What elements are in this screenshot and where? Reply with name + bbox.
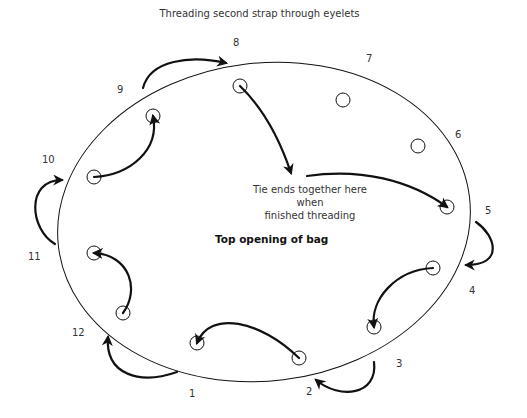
strap-path-arrows [35,60,493,392]
eyelet-number-4: 4 [469,286,475,296]
eyelets [87,79,454,365]
eyelet-number-5: 5 [485,206,491,216]
eyelet-6 [411,139,425,153]
eyelet-number-7: 7 [366,54,372,64]
center-label: Top opening of bag [215,233,328,245]
tie-note-line-1: Tie ends together here when [245,183,375,209]
arrow-12-to-11-inside [94,253,131,313]
eyelet-number-3: 3 [396,359,402,369]
diagram-title: Threading second strap through eyelets [0,8,527,19]
eyelet-number-6: 6 [455,130,461,140]
tie-note-line-2: finished threading [245,209,375,222]
eyelet-number-2: 2 [306,387,312,397]
eyelet-number-11: 11 [28,252,41,262]
arrow-3-to-2-outside [316,362,374,392]
eyelet-number-9: 9 [117,85,123,95]
arrow-8-to-tie [240,86,291,173]
arrow-9-to-8-outside [143,60,226,88]
eyelet-7 [336,93,350,107]
eyelet-number-12: 12 [72,328,85,338]
tie-note: Tie ends together here when finished thr… [245,183,375,222]
arrow-5-to-4-outside [466,222,493,265]
eyelet-number-8: 8 [233,38,239,48]
arrow-10-to-9-inside [94,116,154,177]
eyelet-number-10: 10 [42,155,55,165]
eyelet-number-1: 1 [189,389,195,399]
arrow-4-to-3-inside [374,268,433,327]
arrow-2-to-1-inside [197,323,299,358]
